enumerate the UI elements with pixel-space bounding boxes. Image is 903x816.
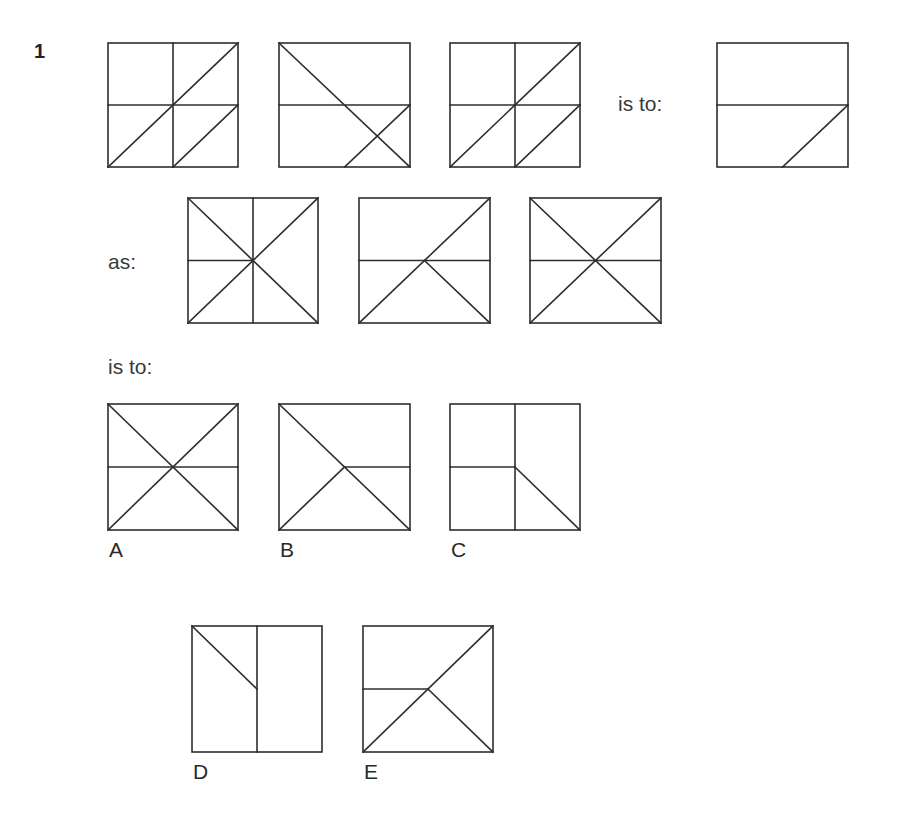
answer-option-b-label[interactable]: B [280,538,294,562]
figure-line [173,105,238,167]
answer-option-e-label[interactable]: E [364,760,378,784]
figure-r1f4 [717,43,848,167]
answer-option-c-label[interactable]: C [451,538,466,562]
figure-line [783,105,849,167]
figure-line [428,689,493,752]
answer-option-e-figure[interactable] [363,626,493,752]
question-number: 1 [34,40,45,63]
answer-option-a-label[interactable]: A [109,538,123,562]
figure-r2f2 [359,198,490,323]
figure-line [192,626,257,689]
figure-line [425,261,491,324]
answer-option-a-figure[interactable] [108,404,238,530]
answer-option-d-label[interactable]: D [193,760,208,784]
figure-r1f3 [450,43,580,167]
as-label: as: [108,250,136,274]
answer-option-c-figure[interactable] [450,404,580,530]
figure-line [515,467,580,530]
figure-r1f1 [108,43,238,167]
figure-r1f2 [279,43,410,167]
is-to-label-2: is to: [108,355,152,379]
is-to-label-1: is to: [618,92,662,116]
answer-option-b-figure[interactable] [279,404,410,530]
figure-line [515,105,580,167]
figure-r2f3 [530,198,661,323]
answer-option-d-figure[interactable] [192,626,322,752]
figure-r2f1 [188,198,318,323]
figure-line [279,467,345,530]
